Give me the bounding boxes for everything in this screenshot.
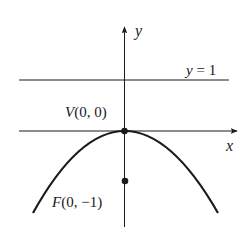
vertex-label: V(0, 0) (65, 104, 107, 121)
vertex-point (121, 128, 128, 135)
focus-label: F(0, −1) (51, 194, 102, 211)
x-axis-label: x (225, 137, 233, 154)
y-axis-label: y (133, 22, 143, 40)
parabola-diagram: y x y = 1 V(0, 0) F(0, −1) (0, 0, 240, 236)
directrix-label: y = 1 (184, 62, 216, 78)
focus-point (122, 178, 129, 185)
